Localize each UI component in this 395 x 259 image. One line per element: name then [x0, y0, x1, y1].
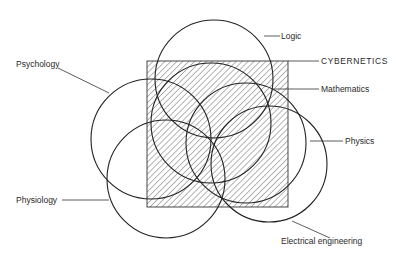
label-cybernetics: CYBERNETICS	[321, 56, 388, 66]
cybernetics-square	[147, 61, 288, 207]
cybernetics-venn-diagram	[0, 0, 395, 259]
label-mathematics: Mathematics	[321, 84, 369, 94]
label-logic: Logic	[281, 31, 301, 41]
leader-psychology	[58, 68, 109, 93]
label-physiology: Physiology	[16, 195, 57, 205]
label-physics: Physics	[345, 136, 374, 146]
label-psychology: Psychology	[16, 59, 59, 69]
label-electrical-engineering: Electrical engineering	[281, 236, 362, 246]
